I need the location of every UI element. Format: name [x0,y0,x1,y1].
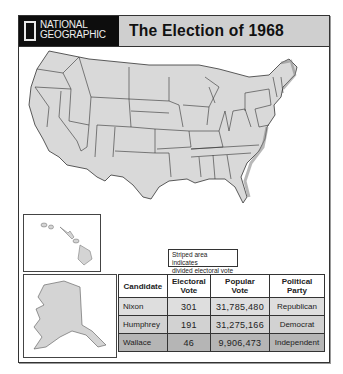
header-political-party: PoliticalParty [269,275,324,298]
table-header-row: Candidate ElectoralVote PopularVote Poli… [119,275,325,298]
popular-cell: 9,906,473 [210,334,269,352]
alaska-inset [23,274,117,358]
hawaii-inset [23,214,101,272]
candidate-cell: Wallace [119,334,168,352]
table-row: Humphrey 191 31,275,166 Democrat [119,316,325,334]
electoral-cell: 46 [167,334,210,352]
map-legend: Striped area indicates divided electoral… [168,249,238,267]
hawaii-map [24,215,100,271]
party-cell: Democrat [269,316,324,334]
candidate-cell: Humphrey [119,316,168,334]
candidate-cell: Nixon [119,298,168,316]
map-frame: NATIONAL GEOGRAPHIC The Election of 1968 [18,15,330,363]
header-candidate: Candidate [119,275,168,298]
table-row: Nixon 301 31,785,480 Republican [119,298,325,316]
national-geographic-logo: NATIONAL GEOGRAPHIC [19,16,119,46]
header-electoral-vote: ElectoralVote [167,275,210,298]
legend-line1: Striped area indicates [172,251,234,267]
page-title: The Election of 1968 [129,21,284,41]
popular-cell: 31,275,166 [210,316,269,334]
header-bar: NATIONAL GEOGRAPHIC The Election of 1968 [19,16,329,47]
header-popular-vote: PopularVote [210,275,269,298]
party-cell: Independent [269,334,324,352]
table-row: Wallace 46 9,906,473 Independent [119,334,325,352]
party-cell: Republican [269,298,324,316]
election-results-table: Candidate ElectoralVote PopularVote Poli… [118,274,325,352]
alaska-map [24,275,116,357]
electoral-cell: 301 [167,298,210,316]
electoral-cell: 191 [167,316,210,334]
contiguous-us-shape [29,51,297,203]
logo-line2: GEOGRAPHIC [40,30,106,40]
yellow-border-icon [24,21,36,41]
popular-cell: 31,785,480 [210,298,269,316]
